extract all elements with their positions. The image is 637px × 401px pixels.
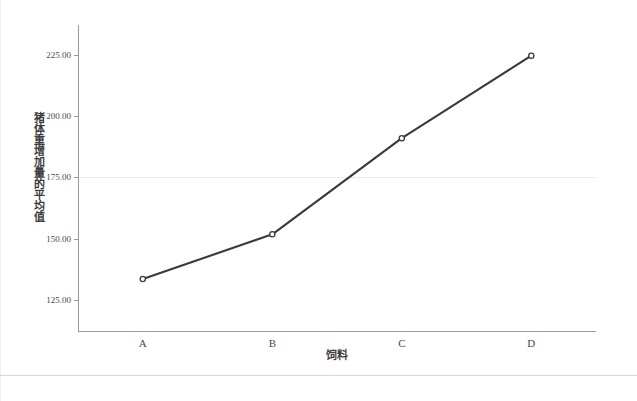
y-tick-label: 175.00 bbox=[46, 172, 71, 182]
y-axis-title: 猪体重增加量的平均值 bbox=[26, 112, 44, 222]
x-axis-title: 饲料 bbox=[78, 349, 596, 362]
series-markers-group bbox=[140, 53, 534, 282]
data-point-marker bbox=[140, 276, 145, 281]
chart-figure: 猪体重增加量的平均值 125.00150.00175.00200.00225.0… bbox=[0, 0, 637, 401]
figure-left-rule bbox=[0, 0, 1, 401]
y-tick-label: 150.00 bbox=[46, 234, 71, 244]
series-line-chart bbox=[78, 25, 596, 332]
y-tick-label: 125.00 bbox=[46, 295, 71, 305]
figure-bottom-rule bbox=[0, 375, 637, 376]
data-point-marker bbox=[270, 232, 275, 237]
data-point-marker bbox=[529, 53, 534, 58]
y-tick-label: 200.00 bbox=[46, 111, 71, 121]
series-line-path bbox=[143, 56, 532, 279]
y-tick-label: 225.00 bbox=[46, 50, 71, 60]
data-point-marker bbox=[399, 136, 404, 141]
plot-area: 125.00150.00175.00200.00225.00 ABCD bbox=[78, 25, 596, 332]
